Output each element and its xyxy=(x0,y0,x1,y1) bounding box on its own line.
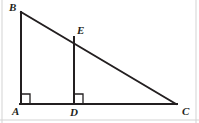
vertex-label-e: E xyxy=(77,25,84,36)
vertex-label-b: B xyxy=(9,2,16,13)
vertex-label-a: A xyxy=(12,106,19,117)
vertex-label-d: D xyxy=(70,107,78,118)
geometry-figure: B A C D E xyxy=(0,0,199,123)
segment-bc-hypotenuse xyxy=(21,12,176,104)
right-angle-marker-a xyxy=(21,94,30,103)
right-angle-marker-d xyxy=(74,94,83,103)
figure-canvas xyxy=(0,0,199,123)
vertex-label-c: C xyxy=(182,106,189,117)
